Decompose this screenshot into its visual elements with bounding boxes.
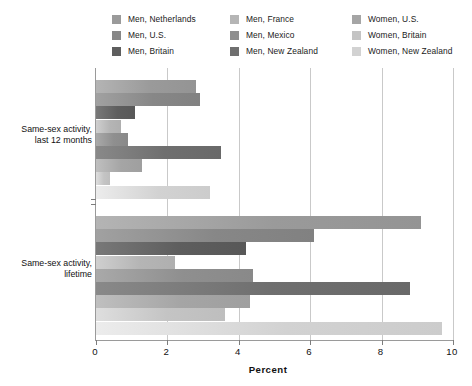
bar	[96, 159, 142, 172]
legend-swatch-icon	[352, 47, 361, 56]
bar	[96, 106, 135, 119]
y-axis-group-label: Same-sex activity,lifetime	[0, 258, 92, 280]
x-axis-tick	[239, 340, 240, 345]
gridline	[310, 68, 311, 340]
y-axis-group-label-line2: last 12 months	[0, 135, 92, 146]
gridline	[382, 68, 383, 340]
x-axis-tick-label: 8	[366, 346, 396, 357]
y-axis-tick	[91, 204, 96, 205]
legend-item-label: Women, Britain	[368, 30, 427, 40]
bar	[96, 308, 225, 321]
bar-chart: Men, NetherlandsMen, U.S.Men, BritainMen…	[0, 0, 472, 386]
bar	[96, 172, 110, 185]
x-axis-tick	[453, 340, 454, 345]
legend-swatch-icon	[112, 31, 121, 40]
legend-swatch-icon	[112, 47, 121, 56]
legend-item[interactable]: Men, Britain	[112, 44, 230, 58]
x-axis-tick-label: 6	[294, 346, 324, 357]
bar	[96, 146, 221, 159]
y-axis-group-label-line1: Same-sex activity,	[0, 124, 92, 135]
bar	[96, 186, 210, 199]
bar	[96, 93, 200, 106]
legend-swatch-icon	[230, 15, 239, 24]
legend-item[interactable]: Women, New Zealand	[352, 44, 462, 58]
legend-item[interactable]: Men, U.S.	[112, 28, 230, 42]
gridline	[453, 68, 454, 340]
x-axis-tick	[167, 340, 168, 345]
legend-item-label: Men, France	[246, 14, 294, 24]
legend-item[interactable]: Women, U.S.	[352, 12, 462, 26]
x-axis-tick-label: 10	[437, 346, 467, 357]
bar	[96, 256, 175, 269]
legend-item[interactable]: Men, Mexico	[230, 28, 352, 42]
legend-item-label: Men, Britain	[128, 46, 174, 56]
legend-swatch-icon	[352, 15, 361, 24]
legend-item[interactable]: Men, France	[230, 12, 352, 26]
plot-area	[95, 68, 453, 341]
bar	[96, 229, 314, 242]
legend-item-label: Women, U.S.	[368, 14, 419, 24]
bar	[96, 242, 246, 255]
y-axis-group-label-line2: lifetime	[0, 269, 92, 280]
legend-column-1: Men, FranceMen, MexicoMen, New Zealand	[230, 12, 352, 58]
bar	[96, 282, 410, 295]
legend-column-2: Women, U.S.Women, BritainWomen, New Zeal…	[352, 12, 462, 58]
legend-item[interactable]: Men, Netherlands	[112, 12, 230, 26]
x-axis-tick-label: 2	[151, 346, 181, 357]
legend-item[interactable]: Men, New Zealand	[230, 44, 352, 58]
y-axis-group-label: Same-sex activity,last 12 months	[0, 124, 92, 146]
bar	[96, 133, 128, 146]
legend-item-label: Women, New Zealand	[368, 46, 453, 56]
x-axis-tick	[96, 340, 97, 345]
legend-item-label: Men, Mexico	[246, 30, 295, 40]
legend-item[interactable]: Women, Britain	[352, 28, 462, 42]
bar	[96, 80, 196, 93]
legend-swatch-icon	[230, 47, 239, 56]
y-axis-tick	[91, 199, 96, 200]
legend-item-label: Men, U.S.	[128, 30, 166, 40]
x-axis-tick	[382, 340, 383, 345]
legend-column-0: Men, NetherlandsMen, U.S.Men, Britain	[112, 12, 230, 58]
y-axis-group-label-line1: Same-sex activity,	[0, 258, 92, 269]
legend-item-label: Men, Netherlands	[128, 14, 196, 24]
legend-swatch-icon	[112, 15, 121, 24]
legend-swatch-icon	[230, 31, 239, 40]
bar	[96, 269, 253, 282]
bar	[96, 322, 442, 335]
x-axis-tick-label: 0	[80, 346, 110, 357]
bar	[96, 120, 121, 133]
legend-swatch-icon	[352, 31, 361, 40]
legend-item-label: Men, New Zealand	[246, 46, 318, 56]
x-axis-tick	[310, 340, 311, 345]
bar	[96, 295, 250, 308]
x-axis-title-text: Percent	[249, 364, 288, 375]
x-axis-tick-label: 4	[223, 346, 253, 357]
chart-legend: Men, NetherlandsMen, U.S.Men, BritainMen…	[112, 12, 462, 58]
bar	[96, 216, 421, 229]
x-axis-title: Percent	[0, 364, 472, 375]
